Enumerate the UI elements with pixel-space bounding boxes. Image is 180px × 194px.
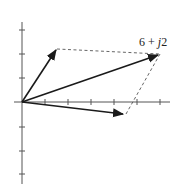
label-imaginary-part: 2 bbox=[161, 35, 167, 49]
dashed-right bbox=[126, 54, 160, 114]
vector-a-arrow bbox=[22, 50, 56, 102]
complex-plane-diagram bbox=[0, 0, 180, 194]
vector-b-arrow bbox=[22, 102, 123, 114]
vectors bbox=[22, 50, 158, 114]
sum-vector-label: 6 + j2 bbox=[139, 35, 167, 50]
parallelogram-dashed-lines bbox=[57, 49, 160, 114]
vector-sum-arrow bbox=[22, 55, 158, 102]
label-real-part: 6 + bbox=[139, 35, 158, 49]
